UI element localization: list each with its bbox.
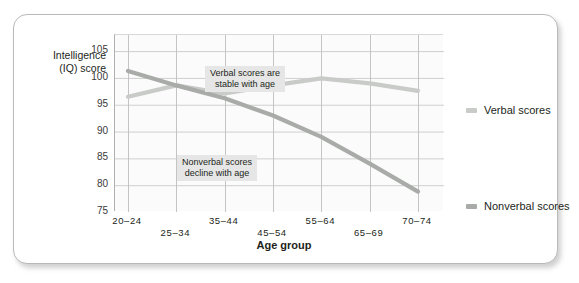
y-tick-label: 95 bbox=[82, 98, 108, 109]
y-tick-label: 75 bbox=[82, 205, 108, 216]
y-tick-label: 100 bbox=[82, 71, 108, 82]
x-tick-label: 55–64 bbox=[306, 215, 335, 226]
chart-card: Intelligence (IQ) score Age group 758085… bbox=[13, 14, 558, 264]
y-tick-label: 85 bbox=[82, 151, 108, 162]
x-tick-label: 65–69 bbox=[354, 227, 383, 238]
chart-annotation: Nonverbal scores decline with age bbox=[177, 155, 257, 181]
legend-label: Verbal scores bbox=[484, 104, 551, 116]
x-tick-label: 20–24 bbox=[112, 215, 141, 226]
legend-swatch bbox=[466, 204, 477, 209]
x-tick-label: 35–44 bbox=[209, 215, 238, 226]
chart-svg bbox=[115, 35, 444, 212]
y-tick-label: 90 bbox=[82, 125, 108, 136]
legend-swatch bbox=[466, 108, 477, 113]
x-tick-label: 25–34 bbox=[161, 227, 190, 238]
legend-item: Verbal scores bbox=[466, 104, 551, 116]
x-axis-title: Age group bbox=[114, 239, 454, 251]
x-tick-label: 45–54 bbox=[257, 227, 286, 238]
y-tick-label: 105 bbox=[82, 44, 108, 55]
plot-area bbox=[114, 34, 443, 211]
y-tick-label: 80 bbox=[82, 178, 108, 189]
x-tick-label: 70–74 bbox=[402, 215, 431, 226]
chart-annotation: Verbal scores are stable with age bbox=[205, 66, 285, 92]
legend-label: Nonverbal scores bbox=[484, 200, 570, 212]
legend-item: Nonverbal scores bbox=[466, 200, 570, 212]
